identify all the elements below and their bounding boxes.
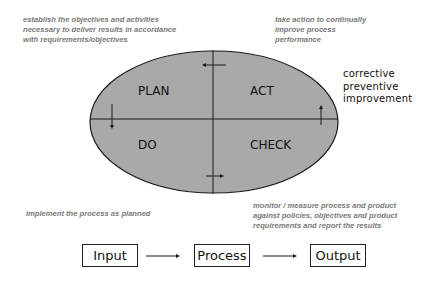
- act-side-note: corrective preventive improvement: [343, 68, 412, 106]
- quadrant-do-label: DO: [138, 138, 157, 152]
- check-description: monitor / measure process and product ag…: [253, 201, 397, 231]
- pdca-ellipse: [90, 51, 338, 193]
- flow-arrow-icon: [146, 254, 180, 258]
- do-description: implement the process as planned: [26, 209, 151, 219]
- quadrant-act-label: ACT: [250, 84, 274, 98]
- quadrant-check-label: CHECK: [250, 138, 291, 152]
- act-description: take action to continually improve proce…: [275, 15, 366, 45]
- plan-description: establish the objectives and activities …: [23, 15, 176, 45]
- process-box: Process: [194, 244, 250, 267]
- input-box: Input: [82, 244, 138, 267]
- output-box: Output: [310, 244, 366, 267]
- quadrant-plan-label: PLAN: [138, 84, 169, 98]
- flow-arrow-icon: [263, 254, 297, 258]
